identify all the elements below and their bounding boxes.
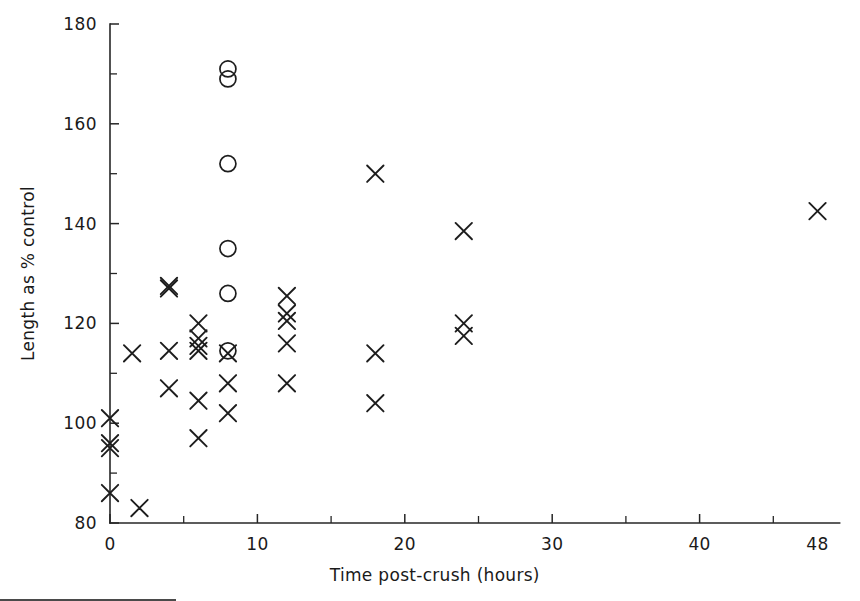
y-tick-label: 140 [63,214,97,234]
x-tick-label: 0 [104,534,115,554]
data-point-o [220,71,236,87]
data-point-x [367,345,383,361]
data-point-o [220,241,236,257]
x-tick-label: 40 [688,534,710,554]
data-point-x [124,345,140,361]
y-tick-label: 80 [75,513,97,533]
y-tick-label: 160 [63,114,97,134]
data-point-x [279,375,295,391]
data-point-x [161,280,177,296]
data-point-x [190,315,206,331]
x-tick-label: 20 [394,534,416,554]
y-tick-label: 180 [63,14,97,34]
data-point-x [161,278,177,294]
x-axis-title: Time post-crush (hours) [329,565,540,585]
data-point-o [220,285,236,301]
y-tick-label: 100 [63,413,97,433]
x-tick-label: 10 [246,534,268,554]
data-point-x [161,343,177,359]
data-point-x [279,305,295,321]
data-point-x [279,288,295,304]
data-point-o [220,156,236,172]
data-point-x [456,223,472,239]
x-tick-label: 48 [806,534,828,554]
data-point-o [220,343,236,359]
data-point-x [367,395,383,411]
data-point-x [279,335,295,351]
data-point-x [131,500,147,516]
data-point-x [190,430,206,446]
data-series-o [220,61,236,359]
x-tick-label: 30 [541,534,563,554]
data-point-x [161,380,177,396]
data-point-o [220,61,236,77]
data-point-x [220,405,236,421]
data-point-x [367,166,383,182]
y-tick-label: 120 [63,313,97,333]
data-point-x [809,203,825,219]
plot-canvas: 8010012014016018001020304048Time post-cr… [0,0,860,601]
data-point-x [456,328,472,344]
data-point-x [190,393,206,409]
scatter-plot-figure: 8010012014016018001020304048Time post-cr… [0,0,860,601]
y-axis-title: Length as % control [18,186,38,361]
data-series-x [102,166,826,517]
data-point-x [279,313,295,329]
data-point-x [220,375,236,391]
